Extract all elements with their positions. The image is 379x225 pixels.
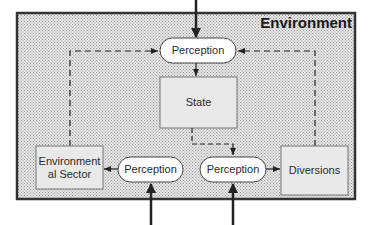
diversions-label: Diversions xyxy=(281,146,348,195)
perception-right-label: Perception xyxy=(200,157,266,182)
environment-title: Environment xyxy=(240,14,352,32)
environmental-sector-label: Environmental Sector xyxy=(36,146,103,189)
perception-top-label: Perception xyxy=(160,38,236,63)
state-label: State xyxy=(160,77,237,128)
perception-left-label: Perception xyxy=(118,157,183,182)
